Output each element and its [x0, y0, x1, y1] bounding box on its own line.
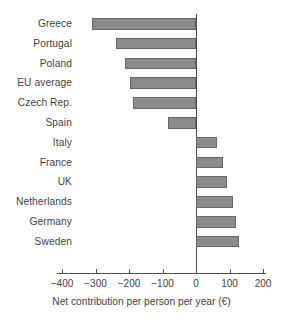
- category-label: France: [0, 153, 72, 173]
- bar: [196, 236, 239, 248]
- bar-row: Greece: [0, 14, 283, 34]
- category-label: Sweden: [0, 232, 72, 252]
- category-label: Czech Rep.: [0, 93, 72, 113]
- category-label: Netherlands: [0, 192, 72, 212]
- x-axis-tick: [263, 269, 264, 273]
- bar-row: Germany: [0, 212, 283, 232]
- bar-row: Portugal: [0, 34, 283, 54]
- bar-row: Spain: [0, 113, 283, 133]
- bar: [196, 216, 236, 228]
- bar: [116, 38, 196, 50]
- category-label: Italy: [0, 133, 72, 153]
- bar: [125, 58, 196, 70]
- x-axis-tick: [196, 269, 197, 273]
- x-axis-tick-label: 200: [243, 278, 283, 289]
- bar: [196, 157, 223, 169]
- bar-row: Italy: [0, 133, 283, 153]
- bar-chart: GreecePortugalPolandEU averageCzech Rep.…: [0, 0, 283, 325]
- category-label: Greece: [0, 14, 72, 34]
- bar: [133, 97, 196, 109]
- x-axis-tick: [230, 269, 231, 273]
- plot-area: GreecePortugalPolandEU averageCzech Rep.…: [0, 0, 283, 325]
- category-label: Poland: [0, 54, 72, 74]
- x-axis-tick: [163, 269, 164, 273]
- bar: [196, 137, 217, 149]
- bar: [196, 176, 227, 188]
- category-label: Germany: [0, 212, 72, 232]
- x-axis-tick: [62, 269, 63, 273]
- category-label: Portugal: [0, 34, 72, 54]
- bar: [130, 77, 196, 89]
- bar: [92, 18, 196, 30]
- category-label: EU average: [0, 73, 72, 93]
- bar-row: Netherlands: [0, 192, 283, 212]
- x-axis-title: Net contribution per person per year (€): [0, 296, 283, 307]
- bar: [196, 196, 233, 208]
- category-label: UK: [0, 172, 72, 192]
- bar-row: Czech Rep.: [0, 93, 283, 113]
- bar-row: Poland: [0, 54, 283, 74]
- x-axis-tick: [129, 269, 130, 273]
- bar-row: Sweden: [0, 232, 283, 252]
- category-label: Spain: [0, 113, 72, 133]
- bar: [168, 117, 196, 129]
- bar-row: France: [0, 153, 283, 173]
- bar-row: UK: [0, 172, 283, 192]
- x-axis-line: [57, 273, 266, 274]
- x-axis-tick: [96, 269, 97, 273]
- bar-row: EU average: [0, 73, 283, 93]
